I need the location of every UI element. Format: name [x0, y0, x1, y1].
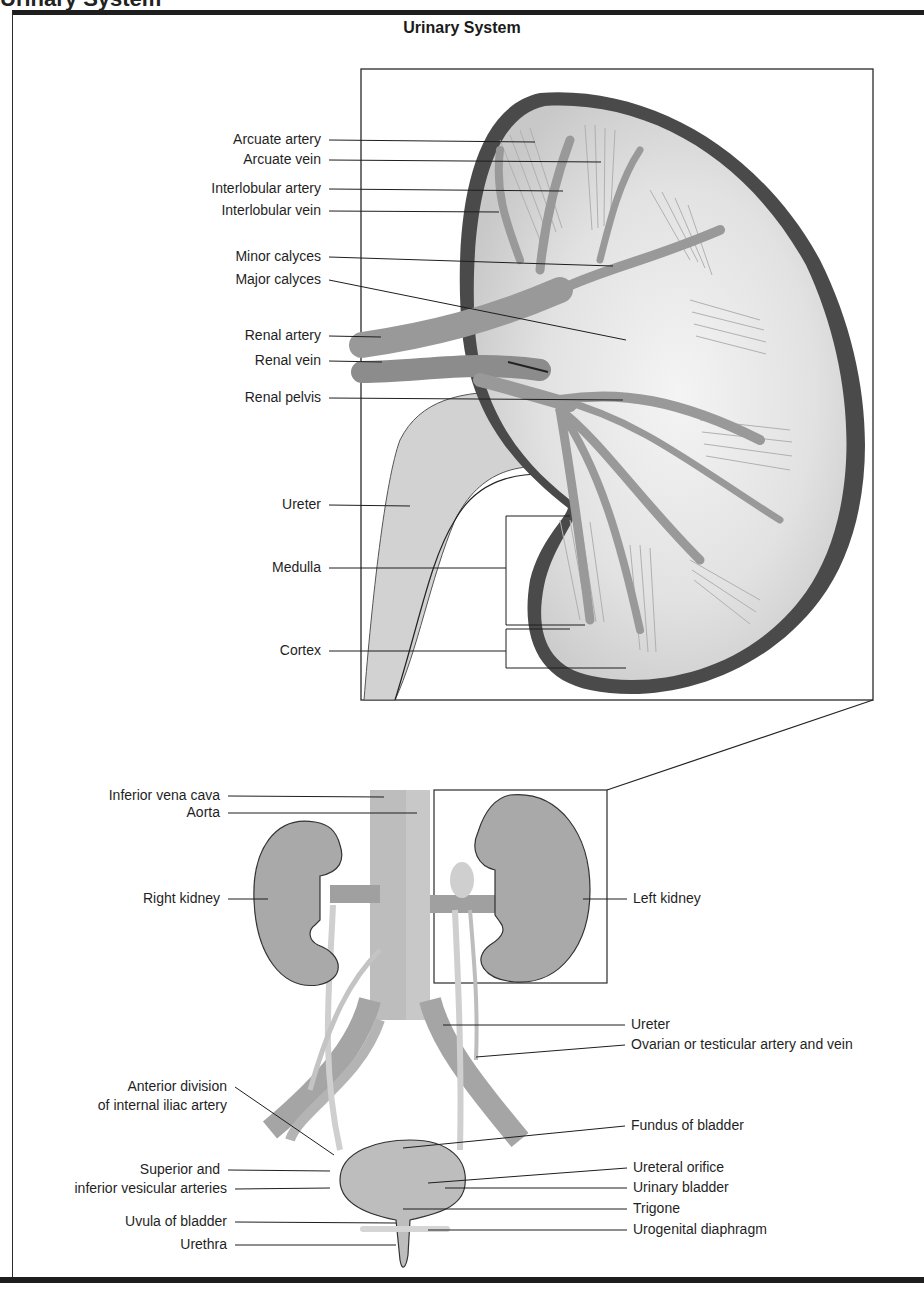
label-urogenital-diaphragm: Urogenital diaphragm	[633, 1221, 767, 1237]
leader-inferior-vena-cava	[228, 796, 384, 797]
leader-uvula-of-bladder	[235, 1222, 396, 1223]
label-cortex: Cortex	[280, 642, 321, 658]
label-anterior-division: Anterior division	[127, 1078, 227, 1094]
label-left-kidney: Left kidney	[633, 890, 701, 906]
bottom-rule	[0, 1277, 924, 1283]
label-trigone: Trigone	[633, 1200, 680, 1216]
label-minor-calyces: Minor calyces	[235, 248, 321, 264]
label-fundus-of-bladder: Fundus of bladder	[631, 1117, 744, 1133]
right-kidney	[254, 821, 342, 985]
label-ureter: Ureter	[631, 1016, 670, 1032]
urogenital-diaphragm	[360, 1226, 450, 1232]
label-urinary-bladder: Urinary bladder	[633, 1179, 729, 1195]
label-superior-and: Superior and	[140, 1161, 220, 1177]
label-urethra: Urethra	[180, 1236, 227, 1252]
label-ovarian-or-testicular-artery-and-vein: Ovarian or testicular artery and vein	[631, 1036, 853, 1052]
label-renal-vein: Renal vein	[255, 352, 321, 368]
label-medulla: Medulla	[272, 559, 321, 575]
label-uvula-of-bladder: Uvula of bladder	[125, 1213, 227, 1229]
bladder	[340, 1140, 465, 1267]
adrenal-gland	[450, 862, 474, 898]
label-interlobular-vein: Interlobular vein	[221, 202, 321, 218]
label-renal-artery: Renal artery	[245, 327, 321, 343]
label-inferior-vesicular-arteries: inferior vesicular arteries	[75, 1180, 228, 1196]
label-aorta: Aorta	[187, 804, 220, 820]
label-of-internal-iliac-artery: of internal iliac artery	[98, 1097, 227, 1113]
label-arcuate-artery: Arcuate artery	[233, 131, 321, 147]
label-ureteral-orifice: Ureteral orifice	[633, 1159, 724, 1175]
label-interlobular-artery: Interlobular artery	[211, 180, 321, 196]
aorta	[406, 790, 430, 1020]
label-inferior-vena-cava: Inferior vena cava	[109, 787, 220, 803]
label-ureter: Ureter	[282, 496, 321, 512]
leader-ovarian-or-testicular-artery-and-vein	[476, 1045, 625, 1057]
leader-superior-and	[228, 1170, 330, 1171]
label-renal-pelvis: Renal pelvis	[245, 389, 321, 405]
label-right-kidney: Right kidney	[143, 890, 220, 906]
leader-inferior-vesicular-arteries	[235, 1188, 330, 1189]
label-arcuate-vein: Arcuate vein	[243, 151, 321, 167]
inferior-vena-cava	[370, 790, 406, 1020]
left-kidney	[475, 795, 590, 983]
label-major-calyces: Major calyces	[235, 271, 321, 287]
